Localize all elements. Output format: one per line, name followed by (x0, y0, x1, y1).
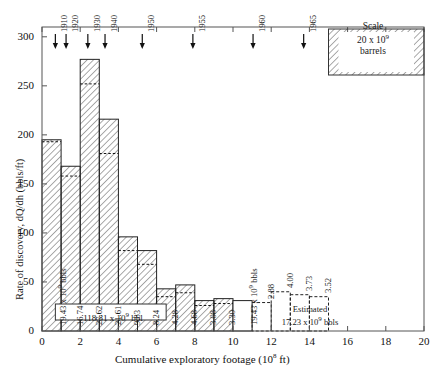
year-marker-1950: 1950 (146, 15, 156, 32)
y-tick-150: 150 (4, 177, 34, 189)
bar-value-label: 3.73 (304, 276, 314, 291)
bar-value-label: 2.88 (266, 284, 276, 299)
y-tick-250: 250 (4, 79, 34, 91)
x-tick-2: 2 (68, 335, 92, 347)
scale-key-line3: barrels (333, 46, 413, 57)
x-tick-14: 14 (297, 335, 321, 347)
x-tick-20: 20 (412, 335, 436, 347)
y-tick-100: 100 (4, 226, 34, 238)
x-tick-0: 0 (30, 335, 54, 347)
year-marker-1910: 1910 (59, 15, 69, 32)
x-tick-18: 18 (374, 335, 398, 347)
estimated-total-label: Estimated 17.23 x 109 bbls (265, 304, 355, 327)
x-tick-6: 6 (145, 335, 169, 347)
estimated-line2: 17.23 x 109 bbls (265, 314, 355, 327)
discovery-rate-chart: Rate of discovery, dQ/dh (bbls/ft) Cumul… (0, 0, 445, 374)
cumulative-total-label: 118.81 x 109 bbl (58, 311, 168, 323)
bar-value-label: 19.43 x 109 bbls (247, 268, 259, 325)
bar-value-label: 4.28 (170, 310, 180, 325)
x-tick-16: 16 (336, 335, 360, 347)
scale-key-text: Scale 20 x 109 barrels (333, 21, 413, 57)
bar-value-label: 3.08 (208, 310, 218, 325)
estimated-line1: Estimated (265, 304, 355, 314)
bar-value-label: 3.52 (323, 278, 333, 293)
y-tick-50: 50 (4, 275, 34, 287)
y-tick-200: 200 (4, 128, 34, 140)
bar-value-label: 3.30 (227, 310, 237, 325)
year-marker-1965: 1965 (308, 15, 318, 32)
x-tick-8: 8 (183, 335, 207, 347)
year-marker-1930: 1930 (92, 15, 102, 32)
year-marker-1940: 1940 (109, 15, 119, 32)
y-tick-300: 300 (4, 30, 34, 42)
year-marker-1955: 1955 (197, 15, 207, 32)
year-marker-1960: 1960 (257, 15, 267, 32)
scale-key-line2: 20 x 109 (333, 32, 413, 46)
x-tick-12: 12 (259, 335, 283, 347)
bar-value-label: 4.00 (285, 273, 295, 288)
year-marker-1920: 1920 (70, 15, 80, 32)
scale-key-line1: Scale (333, 21, 413, 32)
x-tick-4: 4 (106, 335, 130, 347)
x-axis-label: Cumulative exploratory footage (108 ft) (115, 352, 290, 365)
x-tick-10: 10 (221, 335, 245, 347)
bar-value-label: 4.68 (189, 310, 199, 325)
